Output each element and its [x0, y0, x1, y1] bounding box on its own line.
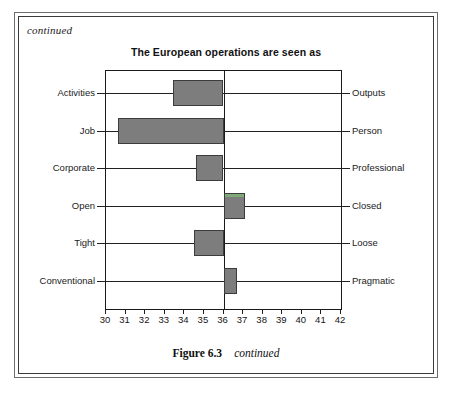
x-tick-label: 38: [256, 314, 267, 325]
x-tick-label: 32: [139, 314, 150, 325]
continued-note: continued: [27, 24, 72, 36]
x-tick-label: 40: [296, 314, 307, 325]
x-tick-label: 36: [217, 314, 228, 325]
category-label-left: Open: [72, 201, 106, 211]
chart-title: The European operations are seen as: [18, 46, 434, 58]
x-tick-label: 35: [198, 314, 209, 325]
x-tick-label: 33: [158, 314, 169, 325]
x-tick-label: 39: [276, 314, 287, 325]
category-label-left: Tight: [74, 238, 106, 248]
bar: [196, 155, 223, 181]
plot-area: ActivitiesOutputsJobPersonCorporateProfe…: [105, 70, 342, 310]
category-label-left: Corporate: [53, 163, 106, 173]
category-line: [106, 168, 341, 169]
category-line: [106, 93, 341, 94]
x-tick-label: 34: [178, 314, 189, 325]
category-label-right: Person: [341, 126, 382, 136]
x-tick-label: 42: [335, 314, 346, 325]
bar: [118, 118, 224, 144]
x-tick-label: 30: [100, 314, 111, 325]
category-label-right: Pragmatic: [341, 276, 395, 286]
category-line: [106, 243, 341, 244]
bar: [224, 268, 238, 294]
figure-caption: Figure 6.3continued: [18, 347, 434, 359]
caption-continued: continued: [234, 347, 279, 359]
x-axis: 30313233343536373839404142: [105, 310, 342, 332]
category-label-right: Outputs: [341, 88, 385, 98]
x-tick-label: 41: [315, 314, 326, 325]
category-label-left: Job: [80, 126, 106, 136]
bar: [194, 230, 223, 256]
category-label-left: Activities: [58, 88, 106, 98]
bar: [173, 80, 224, 106]
category-label-right: Loose: [341, 238, 378, 248]
x-tick-label: 31: [119, 314, 130, 325]
x-tick-label: 37: [237, 314, 248, 325]
figure-page: continued The European operations are se…: [0, 0, 453, 399]
category-label-right: Professional: [341, 163, 404, 173]
caption-number: Figure 6.3: [173, 347, 223, 359]
bar: [224, 193, 246, 219]
category-label-left: Conventional: [40, 276, 106, 286]
category-label-right: Closed: [341, 201, 382, 211]
